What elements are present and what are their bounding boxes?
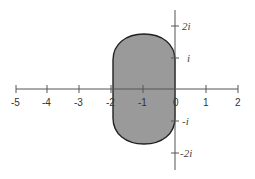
- real-tick-label: -4: [42, 97, 51, 108]
- complex-plane-diagram: -5 -4 -3 -2 -1 0 1 2 2i i -i -2i: [0, 0, 255, 179]
- imag-tick-label: 2i: [182, 20, 191, 32]
- real-tick-label: -3: [74, 97, 83, 108]
- real-tick-label: 1: [203, 97, 209, 108]
- real-tick-label: -2: [106, 97, 115, 108]
- real-tick-label: -5: [11, 97, 20, 108]
- real-tick-label: 0: [173, 97, 179, 108]
- imag-tick-label: -2i: [180, 147, 192, 159]
- real-tick-label: 2: [235, 97, 241, 108]
- imag-tick-label: -i: [182, 115, 189, 127]
- real-tick-label: -1: [138, 97, 147, 108]
- imag-tick-label: i: [187, 52, 190, 64]
